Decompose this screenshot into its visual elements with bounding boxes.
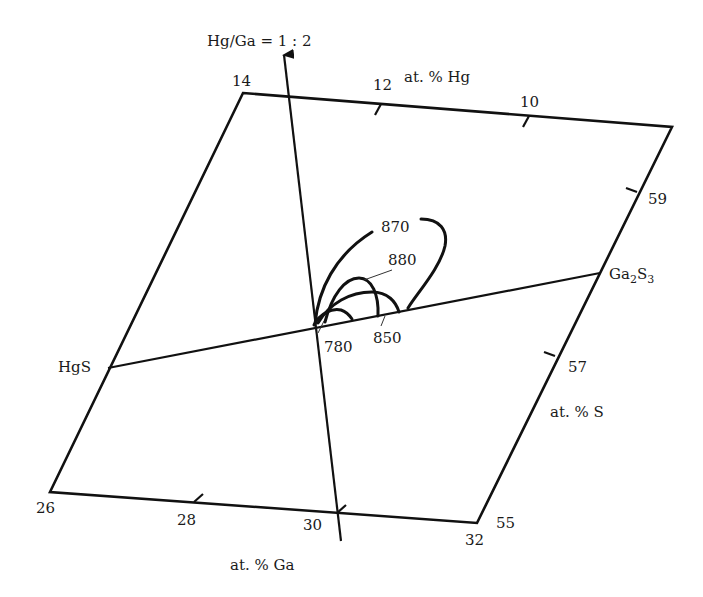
compound-label-ga2s3: Ga2S3: [609, 265, 654, 286]
isotherm-880-curve: [325, 278, 378, 322]
isotherm-label-780: 780: [324, 338, 353, 356]
phase-diagram-svg: Hg/Ga = 1 : 2 14 12 at. % Hg 10 59 57 at…: [0, 0, 703, 597]
tick-label-ga-32: 32: [465, 531, 484, 549]
tick-label-hg-12: 12: [373, 76, 392, 94]
tick-ga-28: [194, 494, 203, 502]
leader-880: [364, 270, 392, 280]
tick-s-57: [544, 352, 555, 356]
tick-label-s-59: 59: [648, 190, 667, 208]
tick-label-ga-30: 30: [303, 516, 322, 534]
compound-label-hgs: HgS: [58, 358, 91, 376]
leader-850: [381, 316, 385, 326]
tick-hg-10: [523, 116, 529, 127]
isotherm-label-850: 850: [373, 329, 402, 347]
axis-label-hg: at. % Hg: [404, 68, 471, 86]
section-line-hgs-ga2s3: [108, 273, 600, 368]
isotherm-label-880: 880: [388, 251, 417, 269]
tick-label-s-57: 57: [568, 358, 587, 376]
tick-label-hg-14: 14: [232, 72, 251, 90]
tick-label-ga-28: 28: [177, 511, 196, 529]
isotherm-label-870: 870: [381, 218, 410, 236]
tick-hg-12: [375, 104, 381, 115]
axis-label-ga: at. % Ga: [230, 556, 295, 574]
composition-frame: [50, 93, 672, 523]
axis-label-s: at. % S: [550, 403, 604, 421]
tick-s-59: [626, 188, 637, 192]
tick-label-hg-10: 10: [520, 93, 539, 111]
ratio-axis-label: Hg/Ga = 1 : 2: [207, 32, 311, 50]
phase-diagram-canvas: Hg/Ga = 1 : 2 14 12 at. % Hg 10 59 57 at…: [0, 0, 703, 597]
tick-label-ga-26: 26: [36, 499, 55, 517]
tick-label-s-55: 55: [496, 514, 515, 532]
isotherm-850-curve: [318, 292, 399, 323]
